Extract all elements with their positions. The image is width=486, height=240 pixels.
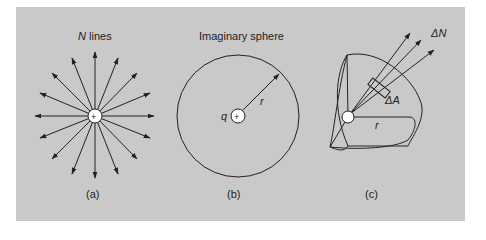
charge-sign-a: +	[91, 112, 96, 122]
area-label-dA: ΔA	[385, 94, 400, 106]
panel-b-title: Imaginary sphere	[199, 30, 284, 42]
radius-label-c: r	[375, 119, 379, 131]
charge-label-q: q	[221, 110, 227, 122]
caption-a: (a)	[86, 188, 99, 200]
caption-c: (c)	[365, 188, 378, 200]
charge-sign-b: +	[234, 112, 239, 122]
charge-c	[342, 111, 354, 123]
sphere-section-c	[330, 33, 434, 150]
panel-a-title: N lines	[78, 30, 112, 42]
radius-label-b: r	[260, 95, 264, 107]
caption-b: (b)	[227, 188, 240, 200]
flux-label-dN: ΔN	[431, 27, 446, 39]
